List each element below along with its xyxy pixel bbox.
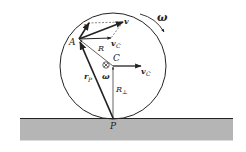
radius-R-label: R	[97, 44, 104, 53]
vC-at-A-subscript: C	[116, 42, 121, 49]
point-P-label: P	[109, 121, 117, 131]
point-A-label: A	[68, 37, 76, 47]
R-perp-label: R	[115, 85, 122, 94]
v-prime-label: v′	[84, 21, 90, 30]
R-perp-subscript: ⊥	[122, 88, 128, 95]
omega-top-label: ω	[157, 11, 168, 24]
omega-into-page-icon	[103, 62, 109, 68]
point-C-label: C	[113, 53, 120, 63]
rolling-wheel-diagram: ω v′ v v C A R C v C ω r P R ⊥ P	[0, 0, 246, 152]
vector-vC-at-A	[79, 38, 111, 39]
omega-center-label: ω	[102, 71, 110, 81]
v-label: v	[124, 16, 129, 26]
vC-at-C-subscript: C	[146, 70, 151, 77]
parallelogram-dashed-top	[88, 22, 123, 23]
rP-subscript: P	[87, 76, 93, 83]
ground	[20, 119, 233, 141]
